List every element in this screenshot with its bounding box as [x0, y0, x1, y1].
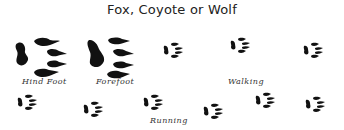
walking-print-icon [303, 42, 325, 58]
running-print-icon [143, 94, 165, 110]
hind-foot-label: Hind Foot [22, 77, 67, 86]
running-print-icon [17, 94, 39, 110]
running-print-icon [203, 103, 225, 119]
running-label: Running [150, 116, 188, 125]
walking-print-icon [163, 42, 185, 58]
running-print-icon [83, 101, 105, 117]
running-print-icon [305, 96, 327, 112]
running-print-icon [255, 92, 277, 108]
walking-print-icon [230, 37, 252, 53]
walking-label: Walking [228, 77, 264, 86]
forefoot-print-icon [86, 36, 138, 80]
hind-foot-print-icon [14, 37, 72, 79]
figure-title: Fox, Coyote or Wolf [0, 2, 344, 17]
forefoot-label: Forefoot [96, 77, 134, 86]
